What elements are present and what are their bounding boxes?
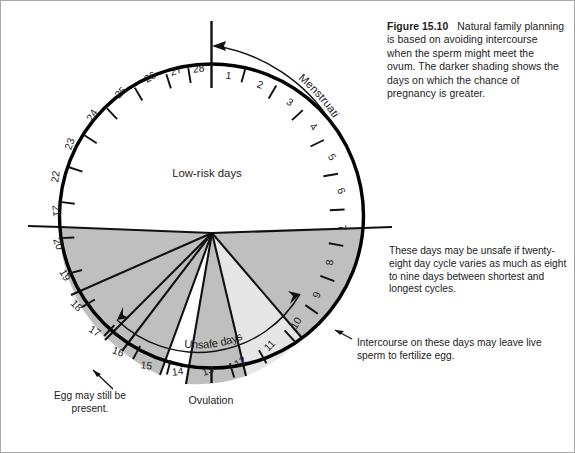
figure-label: Figure 15.10 <box>387 21 448 32</box>
ray-day8-extension <box>363 227 392 228</box>
tick-b6 <box>330 210 345 211</box>
day-label-21: 21 <box>50 204 62 217</box>
ray-day21-extension <box>28 226 60 227</box>
day-label-15: 15 <box>140 359 153 371</box>
low-risk-days-label: Low-risk days <box>172 167 242 179</box>
figure-caption-text: Natural family planning is based on avoi… <box>387 21 564 99</box>
day-label-22: 22 <box>49 170 61 183</box>
figure-caption: Figure 15.10Natural family planning is b… <box>387 20 565 100</box>
annotation-unsafe-variance: These days may be unsafe if twenty-eight… <box>389 245 569 296</box>
ovulation-label: Ovulation <box>189 394 234 406</box>
annotation-intercourse-sperm: Intercourse on these days may leave live… <box>357 337 569 363</box>
annotation-egg-present: Egg may still be present. <box>38 390 142 416</box>
day-label-14: 14 <box>171 365 184 377</box>
figure-page: 1 2 3 4 5 6 7 8 9 10 11 12 13 14 15 16 1… <box>0 0 575 453</box>
day-label-28: 28 <box>192 62 205 74</box>
